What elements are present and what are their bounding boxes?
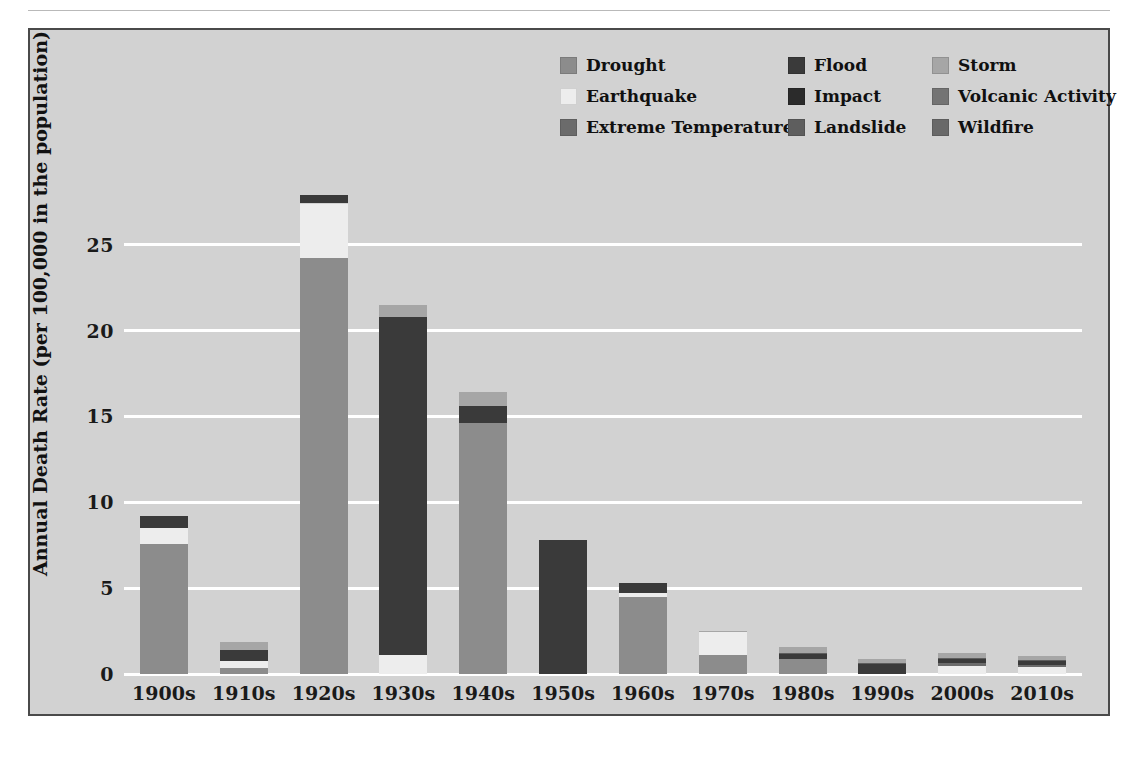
bar-1990s[interactable]: [858, 176, 906, 674]
bar-segment-flood[interactable]: [619, 583, 667, 593]
y-tick-label: 0: [54, 663, 114, 685]
legend-item-extreme-temperature[interactable]: Extreme Temperature: [560, 114, 794, 140]
legend-swatch-icon: [560, 57, 577, 74]
x-tick-label-2010s: 2010s: [992, 682, 1092, 704]
bar-segment-flood[interactable]: [779, 654, 827, 659]
bar-segment-drought[interactable]: [459, 423, 507, 674]
bar-segment-earthquake[interactable]: [699, 632, 747, 655]
bar-segment-earthquake[interactable]: [619, 593, 667, 596]
bar-segment-drought[interactable]: [699, 655, 747, 674]
bar-1960s[interactable]: [619, 176, 667, 674]
bar-segment-flood[interactable]: [1018, 661, 1066, 664]
bar-segment-drought[interactable]: [619, 597, 667, 674]
bar-segment-flood[interactable]: [140, 516, 188, 528]
legend-label: Storm: [958, 57, 1016, 74]
bar-segment-extreme-temperature[interactable]: [938, 663, 986, 666]
bar-segment-landslide[interactable]: [938, 658, 986, 659]
bar-segment-storm[interactable]: [459, 392, 507, 406]
bar-segment-storm[interactable]: [1018, 656, 1066, 660]
y-tick-label: 20: [54, 320, 114, 342]
bar-segment-drought[interactable]: [300, 258, 348, 674]
legend-swatch-icon: [560, 88, 577, 105]
x-axis-ticks: 1900s1910s1920s1930s1940s1950s1960s1970s…: [124, 682, 1082, 722]
bar-1910s[interactable]: [220, 176, 268, 674]
bar-segment-flood[interactable]: [459, 406, 507, 423]
y-tick-label: 5: [54, 577, 114, 599]
bar-segment-storm[interactable]: [779, 647, 827, 653]
legend-swatch-icon: [788, 57, 805, 74]
bar-1940s[interactable]: [459, 176, 507, 674]
bar-segment-storm[interactable]: [858, 659, 906, 662]
plot-area: [124, 176, 1082, 674]
bar-2010s[interactable]: [1018, 176, 1066, 674]
legend-swatch-icon: [932, 119, 949, 136]
bar-segment-flood[interactable]: [858, 664, 906, 674]
legend-item-landslide[interactable]: Landslide: [788, 114, 906, 140]
bar-segment-earthquake[interactable]: [938, 666, 986, 674]
legend-item-drought[interactable]: Drought: [560, 52, 666, 78]
bar-segment-landslide[interactable]: [858, 663, 906, 664]
y-axis-ticks: 0510152025: [44, 176, 114, 674]
legend-item-flood[interactable]: Flood: [788, 52, 867, 78]
y-tick-label: 10: [54, 491, 114, 513]
bar-segment-landslide[interactable]: [1018, 660, 1066, 661]
bar-segment-drought[interactable]: [220, 668, 268, 674]
legend-label: Drought: [586, 57, 666, 74]
bar-segment-drought[interactable]: [779, 659, 827, 674]
legend-swatch-icon: [932, 88, 949, 105]
legend-label: Flood: [814, 57, 867, 74]
bar-segment-flood[interactable]: [379, 317, 427, 655]
legend-swatch-icon: [932, 57, 949, 74]
bar-2000s[interactable]: [938, 176, 986, 674]
y-axis-title-wrap: Annual Death Rate (per 100,000 in the po…: [0, 0, 1, 1]
legend-item-volcanic-activity[interactable]: Volcanic Activity: [932, 83, 1116, 109]
bar-segment-storm[interactable]: [220, 642, 268, 650]
legend-label: Extreme Temperature: [586, 119, 794, 136]
bar-segment-storm[interactable]: [699, 631, 747, 632]
bar-segment-extreme-temperature[interactable]: [1018, 665, 1066, 668]
bar-segment-flood[interactable]: [220, 650, 268, 661]
bar-segment-earthquake[interactable]: [300, 204, 348, 259]
y-tick-label: 25: [54, 234, 114, 256]
bar-1970s[interactable]: [699, 176, 747, 674]
bar-1930s[interactable]: [379, 176, 427, 674]
chart-legend: DroughtEarthquakeExtreme TemperatureFloo…: [560, 52, 1070, 148]
legend-item-wildfire[interactable]: Wildfire: [932, 114, 1034, 140]
bar-1950s[interactable]: [539, 176, 587, 674]
bar-1900s[interactable]: [140, 176, 188, 674]
legend-item-storm[interactable]: Storm: [932, 52, 1016, 78]
legend-label: Earthquake: [586, 88, 697, 105]
legend-swatch-icon: [788, 88, 805, 105]
bar-segment-storm[interactable]: [379, 305, 427, 317]
bar-segment-earthquake[interactable]: [140, 528, 188, 543]
legend-item-impact[interactable]: Impact: [788, 83, 881, 109]
legend-swatch-icon: [788, 119, 805, 136]
y-tick-label: 15: [54, 405, 114, 427]
chart-figure: Annual Death Rate (per 100,000 in the po…: [0, 0, 1140, 765]
bar-segment-flood[interactable]: [938, 659, 986, 663]
bar-1920s[interactable]: [300, 176, 348, 674]
bar-segment-flood[interactable]: [300, 195, 348, 204]
bar-1980s[interactable]: [779, 176, 827, 674]
legend-label: Landslide: [814, 119, 906, 136]
bar-segment-earthquake[interactable]: [379, 655, 427, 674]
legend-label: Volcanic Activity: [958, 88, 1116, 105]
bar-segment-storm[interactable]: [938, 653, 986, 658]
bar-segment-flood[interactable]: [539, 540, 587, 674]
bar-segment-earthquake[interactable]: [220, 661, 268, 668]
bar-segment-earthquake[interactable]: [1018, 667, 1066, 674]
legend-item-earthquake[interactable]: Earthquake: [560, 83, 697, 109]
bar-segment-drought[interactable]: [140, 544, 188, 675]
bar-segment-landslide[interactable]: [779, 653, 827, 654]
legend-label: Wildfire: [958, 119, 1034, 136]
legend-swatch-icon: [560, 119, 577, 136]
legend-label: Impact: [814, 88, 881, 105]
top-divider-line: [28, 10, 1110, 11]
